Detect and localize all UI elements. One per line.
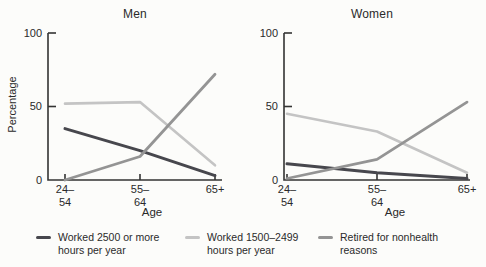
- women-y-tick-label-100: 100: [254, 27, 278, 39]
- men-x-tick-label-65plus: 65+: [198, 183, 232, 196]
- legend-item-worked-1500-2499: Worked 1500–2499 hours per year: [185, 231, 298, 257]
- chart-title-women: Women: [351, 7, 393, 21]
- legend-label-worked-2500: Worked 2500 or more hours per year: [58, 231, 159, 257]
- legend-label-retired-nonhealth: Retired for nonhealth reasons: [340, 231, 438, 257]
- women-x-tick-label-65plus: 65+: [450, 183, 484, 196]
- women-x-tick-label-24-54: 24– 54: [270, 183, 304, 208]
- legend-swatch-worked-1500-2499-line: [185, 236, 200, 239]
- series-line-1: [287, 114, 467, 173]
- chart-title-men: Men: [123, 7, 147, 21]
- women-x-tick-label-55-64: 55– 64: [360, 183, 394, 208]
- men-x-tick-label-55-64: 55– 64: [123, 183, 157, 208]
- legend-item-worked-2500: Worked 2500 or more hours per year: [36, 231, 159, 257]
- legend-swatch-retired-nonhealth-line: [318, 236, 333, 239]
- men-y-tick-label-100: 100: [18, 27, 42, 39]
- dual-line-chart-figure: Men Women Percentage 100 50 0 100 50 0 2…: [0, 0, 486, 267]
- legend-label-worked-1500-2499: Worked 1500–2499 hours per year: [207, 231, 298, 257]
- women-x-axis-title: Age: [385, 206, 405, 218]
- series-line-0: [65, 129, 215, 176]
- men-x-tick-label-24-54: 24– 54: [48, 183, 82, 208]
- legend-swatch-worked-2500-line: [36, 236, 51, 239]
- women-y-tick-label-50: 50: [254, 100, 278, 112]
- men-y-tick-label-0: 0: [18, 174, 42, 186]
- y-axis-title: Percentage: [6, 67, 19, 143]
- men-x-axis-title: Age: [142, 206, 162, 218]
- legend-item-retired-nonhealth: Retired for nonhealth reasons: [318, 231, 438, 257]
- men-y-tick-label-50: 50: [18, 100, 42, 112]
- series-line-2: [65, 74, 215, 180]
